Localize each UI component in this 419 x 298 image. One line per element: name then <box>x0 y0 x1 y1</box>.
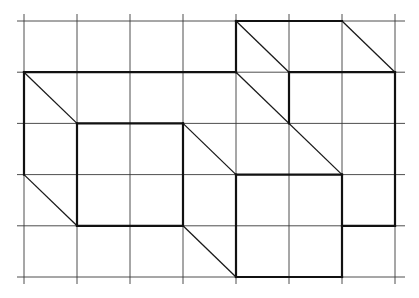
diagonal-edge <box>236 21 289 72</box>
diagonal-edge <box>24 175 77 226</box>
diagonal-lines <box>24 21 395 277</box>
diagonal-edge <box>24 72 77 123</box>
diagonal-edge <box>342 21 395 72</box>
diagonal-edge <box>183 226 236 277</box>
grid-lines <box>17 14 405 284</box>
diagonal-edge <box>183 123 236 174</box>
grid-diagram <box>0 0 419 298</box>
